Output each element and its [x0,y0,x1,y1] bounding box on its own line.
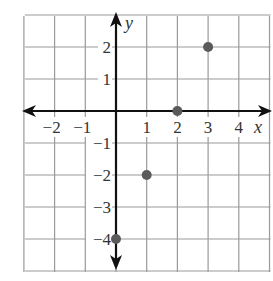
y-tick-label: −1 [93,134,111,153]
x-tick-label: 4 [235,118,244,137]
coordinate-plane: −2−1123421−1−2−3−4 y x [0,0,273,281]
y-tick-label: −3 [93,198,111,217]
grid [24,15,271,272]
data-point [172,106,182,116]
data-point [203,42,213,52]
y-tick-label: 2 [103,38,112,57]
y-axis-label: y [123,13,133,33]
y-tick-label: −4 [93,230,112,249]
x-tick-label: 1 [142,118,151,137]
x-tick-label: 2 [173,118,182,137]
data-point [111,234,121,244]
y-tick-label: −2 [93,166,111,185]
x-tick-label: −2 [43,118,61,137]
x-tick-label: 3 [204,118,213,137]
x-axis-label: x [253,117,262,137]
data-point [142,170,152,180]
y-tick-label: 1 [103,70,112,89]
